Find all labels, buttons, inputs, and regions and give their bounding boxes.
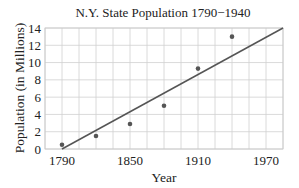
- x-tick-label: 1970: [253, 153, 279, 168]
- y-tick-label: 4: [35, 107, 42, 122]
- x-axis-ticks: 1790185019101970: [49, 153, 279, 168]
- x-tick-label: 1910: [185, 153, 211, 168]
- y-tick-label: 6: [35, 90, 42, 105]
- x-tick-label: 1790: [49, 153, 75, 168]
- y-tick-label: 2: [35, 124, 42, 139]
- data-point: [94, 134, 99, 139]
- y-tick-label: 14: [28, 21, 42, 36]
- data-point: [60, 142, 65, 147]
- chart-title: N.Y. State Population 1790−1940: [75, 5, 250, 20]
- y-axis-ticks: 02468101214: [28, 21, 42, 157]
- y-tick-label: 0: [35, 142, 42, 157]
- data-point: [128, 122, 133, 127]
- y-axis-title: Population (in Millions): [12, 23, 27, 154]
- data-series: [60, 28, 283, 149]
- x-tick-label: 1850: [117, 153, 143, 168]
- data-point: [230, 34, 235, 39]
- data-point: [162, 103, 167, 108]
- y-tick-label: 12: [28, 38, 41, 53]
- grid-lines: [45, 28, 283, 149]
- scatter-chart: N.Y. State Population 1790−1940 02468101…: [0, 0, 299, 188]
- trend-line: [62, 28, 283, 149]
- y-tick-label: 10: [28, 55, 41, 70]
- y-tick-label: 8: [35, 72, 42, 87]
- chart-container: N.Y. State Population 1790−1940 02468101…: [0, 0, 299, 188]
- x-axis-title: Year: [152, 170, 177, 185]
- data-point: [196, 66, 201, 71]
